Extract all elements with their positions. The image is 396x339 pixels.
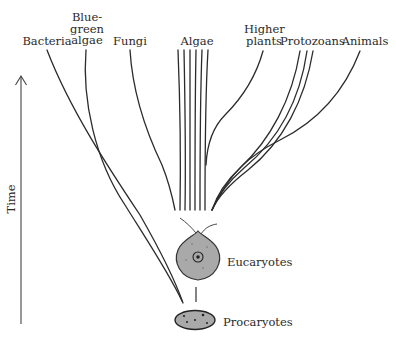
label-blue-green-algae: Blue- green algae bbox=[68, 12, 106, 47]
blue-green-algae-branch bbox=[85, 50, 182, 301]
label-higher-plants: Higher plants bbox=[244, 24, 284, 47]
eucaryote-cell bbox=[176, 218, 219, 280]
animals-branch bbox=[212, 51, 360, 210]
label-algae: Algae bbox=[177, 36, 217, 48]
higher-plants-branch bbox=[206, 51, 263, 165]
label-fungi: Fungi bbox=[110, 36, 150, 48]
diagram-svg bbox=[0, 0, 396, 339]
label-animals-text: Animals bbox=[338, 36, 392, 48]
label-fungi-text: Fungi bbox=[110, 36, 150, 48]
label-eucaryotes: Eucaryotes bbox=[227, 255, 292, 269]
time-axis-label: Time bbox=[4, 184, 18, 214]
label-animals: Animals bbox=[338, 36, 392, 48]
label-bacteria: Bacteria bbox=[22, 36, 72, 48]
label-bacteria-text: Bacteria bbox=[22, 36, 72, 48]
label-algae-text: Algae bbox=[177, 36, 217, 48]
label-procaryotes: Procaryotes bbox=[223, 315, 293, 329]
evolution-diagram: Bacteria Blue- green algae Fungi Algae H… bbox=[0, 0, 396, 339]
label-protozoans-text: Protozoans bbox=[280, 36, 336, 48]
procaryote-cell bbox=[175, 311, 215, 330]
algae-branches bbox=[178, 50, 208, 210]
label-protozoans: Protozoans bbox=[280, 36, 336, 48]
fungi-branch bbox=[130, 50, 175, 210]
label-higher-plants-line2: plants bbox=[244, 36, 284, 48]
label-blue-green-line3: algae bbox=[68, 35, 106, 47]
